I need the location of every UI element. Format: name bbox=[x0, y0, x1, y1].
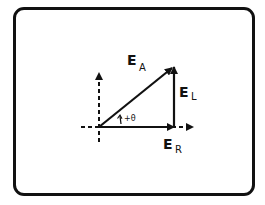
ea-label: E A bbox=[127, 52, 146, 73]
svg-text:A: A bbox=[139, 62, 146, 73]
angle-label: +θ bbox=[124, 114, 136, 123]
er-label: E R bbox=[163, 136, 182, 155]
el-label: E L bbox=[179, 84, 197, 102]
svg-text:E: E bbox=[127, 52, 137, 68]
svg-text:L: L bbox=[191, 91, 197, 102]
angle-marker: +θ bbox=[118, 114, 136, 124]
svg-text:E: E bbox=[163, 136, 173, 152]
phasor-diagram: +θ E A E L E R bbox=[0, 0, 265, 205]
svg-text:E: E bbox=[179, 84, 189, 100]
svg-text:R: R bbox=[175, 144, 182, 155]
